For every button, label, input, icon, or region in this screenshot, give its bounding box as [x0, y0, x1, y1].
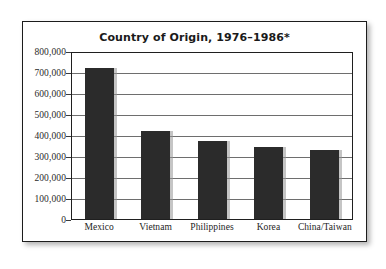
y-axis-tick-label: 0: [61, 215, 66, 225]
y-axis-tick: [66, 136, 71, 137]
y-axis-tick: [66, 115, 71, 116]
x-axis-tick-label: Vietnam: [127, 222, 183, 232]
y-axis-tick: [66, 94, 71, 95]
x-axis-tick-label: China/Taiwan: [297, 222, 353, 232]
y-axis-tick-label: 600,000: [34, 89, 66, 99]
y-axis-tick-label: 800,000: [34, 47, 66, 57]
bar-slot: [71, 52, 127, 220]
bar: [198, 141, 227, 220]
bar-slot: [297, 52, 353, 220]
y-axis-tick-label: 400,000: [34, 131, 66, 141]
y-axis-tick-label: 500,000: [34, 110, 66, 120]
y-axis-tick-label: 200,000: [34, 173, 66, 183]
y-axis-tick: [66, 199, 71, 200]
x-axis-tick-label: Korea: [240, 222, 296, 232]
y-axis-tick-label: 700,000: [34, 68, 66, 78]
y-axis-tick: [66, 157, 71, 158]
y-axis-labels: 0100,000200,000300,000400,000500,000600,…: [24, 52, 66, 220]
bar-slot: [184, 52, 240, 220]
y-axis-tick: [66, 52, 71, 53]
x-axis-tick-label: Philippines: [184, 222, 240, 232]
bar-series: [71, 52, 353, 220]
bar: [310, 150, 339, 220]
bar: [141, 131, 170, 220]
y-axis-tick: [66, 178, 71, 179]
y-axis-tick-label: 300,000: [34, 152, 66, 162]
x-axis-tick-label: Mexico: [71, 222, 127, 232]
figure-frame: Country of Origin, 1976–1986* 0100,00020…: [22, 21, 367, 242]
chart-title: Country of Origin, 1976–1986*: [23, 31, 366, 44]
y-axis-tick: [66, 73, 71, 74]
y-axis-ticks: [66, 52, 71, 220]
bar-slot: [127, 52, 183, 220]
bar-slot: [240, 52, 296, 220]
bar: [254, 147, 283, 221]
plot-area: 0100,000200,000300,000400,000500,000600,…: [71, 52, 353, 220]
y-axis-tick: [66, 220, 71, 221]
bar: [85, 68, 114, 220]
y-axis-tick-label: 100,000: [34, 194, 66, 204]
chart-page: Country of Origin, 1976–1986* 0100,00020…: [0, 0, 386, 269]
x-axis-labels: MexicoVietnamPhilippinesKoreaChina/Taiwa…: [71, 222, 353, 232]
